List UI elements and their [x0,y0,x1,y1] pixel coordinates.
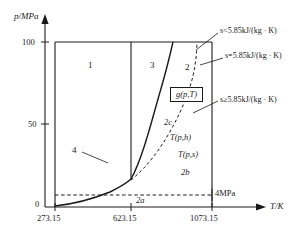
axis-group [41,14,266,211]
diagram-svg [0,0,305,236]
saturation-line-region-4 [55,179,131,206]
x-axis-arrow [256,203,266,210]
y-tick-label-0: 0 [35,200,39,209]
region-label-1: 1 [88,61,93,70]
y-tick-label-100: 100 [22,38,35,47]
x-tick-label-623: 623.15 [113,214,136,223]
y-tick-label-50: 50 [28,120,37,129]
region-label-2: 2 [185,63,190,72]
x-tick-label-1073: 1073.15 [190,214,218,223]
region-label-2c: 2c [164,118,172,127]
leader-region-4 [82,152,108,163]
boxed-label-g-p-T: g(p,T) [170,87,203,102]
region-label-2a: 2a [136,196,145,205]
curve-label-T-p-h: T(p,h) [170,133,191,142]
y-axis-arrow [41,14,48,24]
figure-canvas: p/MPa T/K 100 50 0 273.15 623.15 1073.15… [0,0,305,236]
leader-s-greater [193,101,218,113]
curve-label-T-p-s: T(p,s) [178,150,198,159]
legend-label-s-greater: s≥5.85kJ/(kg · K) [220,96,277,104]
legend-label-s-equal: s=5.85kJ/(kg · K) [225,52,282,60]
y-axis-title: p/MPa [14,12,39,21]
region-label-2b: 2b [181,168,190,177]
legend-label-s-less: s<5.85kJ/(kg · K) [220,27,277,35]
region-label-3: 3 [150,61,155,70]
x-axis-title: T/K [270,202,284,211]
isobar-label-4MPa: 4MPa [215,189,235,198]
x-tick-label-273: 273.15 [37,214,60,223]
region-label-4: 4 [72,146,77,155]
